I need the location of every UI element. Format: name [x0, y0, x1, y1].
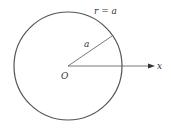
origin-label: O	[61, 71, 69, 81]
equation-label: r = a	[94, 6, 117, 16]
radius-line	[68, 36, 112, 66]
radius-label: a	[84, 39, 89, 49]
x-axis-label: x	[157, 61, 162, 71]
x-axis-arrowhead-icon	[148, 64, 155, 69]
polar-circle-diagram: r = a a O x	[0, 0, 171, 130]
